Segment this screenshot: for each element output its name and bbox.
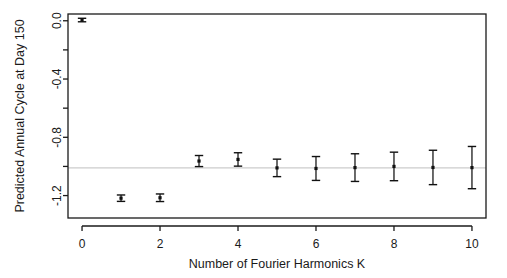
x-axis-title: Number of Fourier Harmonics K [189, 257, 366, 271]
x-axis-tick-label: 2 [157, 237, 164, 251]
data-marker [470, 166, 473, 169]
x-axis-tick-label: 8 [391, 237, 398, 251]
data-marker [392, 165, 395, 168]
data-marker [431, 166, 434, 169]
data-marker [158, 196, 161, 199]
y-axis-tick-label: -1.2 [50, 185, 64, 206]
y-axis-tick-label: -0.8 [50, 127, 64, 148]
y-axis-tick-label: -0.4 [50, 68, 64, 89]
x-axis-tick-label: 10 [465, 237, 479, 251]
data-marker [236, 158, 239, 161]
data-marker [80, 18, 83, 21]
chart-figure: 0.0-0.4-0.8-1.2 0246810 Predicted Annual… [0, 0, 507, 278]
y-axis-title: Predicted Annual Cycle at Day 150 [13, 19, 27, 212]
data-marker [275, 166, 278, 169]
y-axis-tick-label: 0.0 [50, 12, 64, 29]
x-axis-tick-label: 6 [313, 237, 320, 251]
x-axis-tick-label: 0 [79, 237, 86, 251]
data-marker [197, 159, 200, 162]
data-marker [353, 166, 356, 169]
data-marker [119, 197, 122, 200]
data-marker [314, 167, 317, 170]
figure-background [0, 0, 507, 278]
x-axis-tick-label: 4 [235, 237, 242, 251]
